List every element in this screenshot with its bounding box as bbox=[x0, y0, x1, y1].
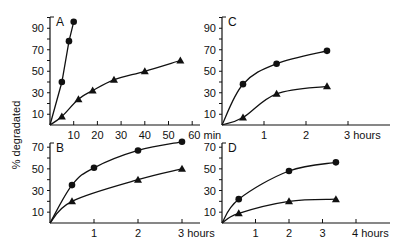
series-line-circles bbox=[50, 22, 74, 125]
series-line-triangles bbox=[50, 169, 182, 223]
triangle-marker-icon bbox=[89, 87, 97, 94]
y-axis-label: % degradated bbox=[10, 101, 22, 170]
circle-marker-icon bbox=[91, 164, 98, 171]
circle-marker-icon bbox=[135, 147, 142, 154]
y-tick-label: 10 bbox=[32, 108, 44, 120]
triangle-marker-icon bbox=[239, 113, 247, 120]
y-tick-label: 50 bbox=[204, 163, 216, 175]
x-tick-label: 3 hours bbox=[344, 129, 381, 141]
panel-label: B bbox=[56, 141, 64, 155]
y-tick-label: 30 bbox=[204, 87, 216, 99]
triangle-marker-icon bbox=[323, 82, 331, 89]
x-tick-label: 1 bbox=[252, 227, 258, 239]
x-tick-label: 60 min bbox=[188, 129, 221, 141]
y-tick-label: 30 bbox=[32, 87, 44, 99]
y-tick-label: 90 bbox=[204, 22, 216, 34]
y-tick-label: 70 bbox=[204, 44, 216, 56]
circle-marker-icon bbox=[179, 138, 186, 145]
x-tick-label: 1 bbox=[91, 227, 97, 239]
panel-label: A bbox=[56, 15, 64, 29]
y-tick-label: 50 bbox=[32, 163, 44, 175]
series-line-circles bbox=[50, 142, 182, 223]
circle-marker-icon bbox=[324, 48, 331, 55]
panels: 1030507090102030405060 minA1030507090123… bbox=[32, 15, 390, 239]
y-tick-label: 70 bbox=[32, 44, 44, 56]
y-tick-label: 70 bbox=[204, 141, 216, 153]
y-tick-label: 90 bbox=[32, 22, 44, 34]
circle-marker-icon bbox=[286, 168, 293, 175]
chart-figure: % degradated 1030507090102030405060 minA… bbox=[0, 0, 401, 249]
x-tick-label: 2 bbox=[135, 227, 141, 239]
panel-d: 103050701234 hoursD bbox=[204, 141, 390, 239]
circle-marker-icon bbox=[240, 81, 247, 88]
x-tick-label: 20 bbox=[91, 129, 103, 141]
y-tick-label: 30 bbox=[32, 185, 44, 197]
x-tick-label: 40 bbox=[139, 129, 151, 141]
x-tick-label: 10 bbox=[68, 129, 80, 141]
triangle-marker-icon bbox=[176, 57, 184, 64]
panel-c: 1030507090123 hoursC bbox=[204, 15, 390, 141]
y-tick-label: 10 bbox=[32, 206, 44, 218]
panel-label: C bbox=[228, 15, 237, 29]
y-tick-label: 10 bbox=[204, 108, 216, 120]
panel-label: D bbox=[228, 141, 237, 155]
triangle-marker-icon bbox=[68, 197, 76, 204]
circle-marker-icon bbox=[235, 196, 242, 203]
panel-a: 1030507090102030405060 minA bbox=[32, 15, 221, 141]
x-tick-label: 3 hours bbox=[178, 227, 215, 239]
x-tick-label: 2 bbox=[303, 129, 309, 141]
series-line-triangles bbox=[50, 61, 180, 126]
y-tick-label: 70 bbox=[32, 141, 44, 153]
y-tick-label: 30 bbox=[204, 185, 216, 197]
circle-marker-icon bbox=[59, 79, 66, 86]
y-tick-label: 50 bbox=[32, 65, 44, 77]
x-tick-label: 3 bbox=[319, 227, 325, 239]
x-tick-label: 30 bbox=[115, 129, 127, 141]
x-tick-label: 1 bbox=[261, 129, 267, 141]
x-tick-label: 4 hours bbox=[352, 227, 389, 239]
x-tick-label: 50 bbox=[162, 129, 174, 141]
circle-marker-icon bbox=[69, 182, 76, 189]
triangle-marker-icon bbox=[178, 165, 186, 172]
circle-marker-icon bbox=[273, 60, 280, 67]
circle-marker-icon bbox=[333, 159, 340, 166]
circle-marker-icon bbox=[70, 19, 77, 26]
circle-marker-icon bbox=[66, 38, 73, 45]
x-tick-label: 2 bbox=[286, 227, 292, 239]
triangle-marker-icon bbox=[74, 95, 82, 102]
panel-b: 10305070123 hoursB bbox=[32, 138, 215, 239]
y-tick-label: 50 bbox=[204, 65, 216, 77]
y-tick-label: 10 bbox=[204, 206, 216, 218]
